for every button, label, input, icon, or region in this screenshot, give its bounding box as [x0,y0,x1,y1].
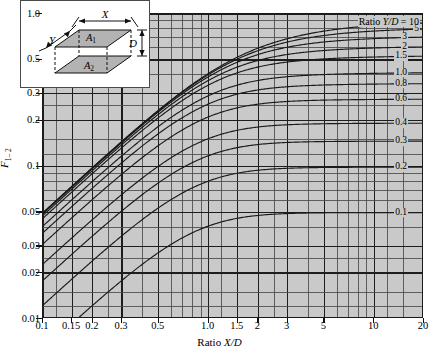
curve-end-label-0-2: 0.2 [394,162,408,172]
y-tick-mark [36,93,42,94]
x-tick-mark [237,318,238,323]
y-tick-0-05: 0.05 [0,206,40,217]
curve-end-label-0-6: 0.6 [394,94,408,104]
curve-end-label-0-1: 0.1 [394,208,408,218]
x-tick-mark [121,318,122,323]
x-axis-title-symbol: X/D [224,336,242,348]
y-tick-mark [36,272,42,273]
x-axis-title-prefix: Ratio [197,336,224,348]
y-tick-0-1: 0.1 [0,160,40,171]
inset-label-y: Y [49,34,57,46]
x-tick-mark [71,318,72,323]
x-tick-mark [208,318,209,323]
x-tick-mark [42,318,43,323]
y-tick-mark [36,211,42,212]
x-tick-mark [423,318,424,323]
y-tick-0-2: 0.2 [0,114,40,125]
y-tick-1-0: 1.0 [0,8,40,19]
curve-end-label-0-8: 0.8 [394,79,408,89]
curve-end-label-1-5: 1.5 [394,51,408,61]
y-tick-0-03: 0.03 [0,240,40,251]
y-tick-0-3: 0.3 [0,87,40,98]
y-tick-mark [36,166,42,167]
y-tick-0-5: 0.5 [0,53,40,64]
inset-label-d: D [128,37,137,49]
y-tick-mark [36,245,42,246]
x-tick-mark [287,318,288,323]
inset-label-x: X [101,8,110,20]
curve-end-label-5: 5 [413,24,420,34]
y-tick-mark [36,13,42,14]
x-tick-mark [257,318,258,323]
curve-end-label-0-3: 0.3 [394,136,408,146]
x-tick-mark [92,318,93,323]
y-tick-mark [36,59,42,60]
y-tick-mark [36,120,42,121]
legend-title-symbol: Y/D [383,16,399,27]
curve-end-label-0-4: 0.4 [394,118,408,128]
legend-title-prefix: Ratio [359,16,383,27]
chart-figure: F1– 2 Ratio Y/D = 10 105321.51.00.80.60.… [0,0,439,361]
x-tick-mark [323,318,324,323]
y-tick-0-01: 0.01 [0,313,40,324]
x-tick-mark [373,318,374,323]
curve-end-label-1-0: 1.0 [394,68,408,78]
x-tick-mark [158,318,159,323]
x-axis-title: Ratio X/D [0,336,439,348]
y-tick-0-02: 0.02 [0,267,40,278]
legend-title: Ratio Y/D = 10 [358,16,420,27]
